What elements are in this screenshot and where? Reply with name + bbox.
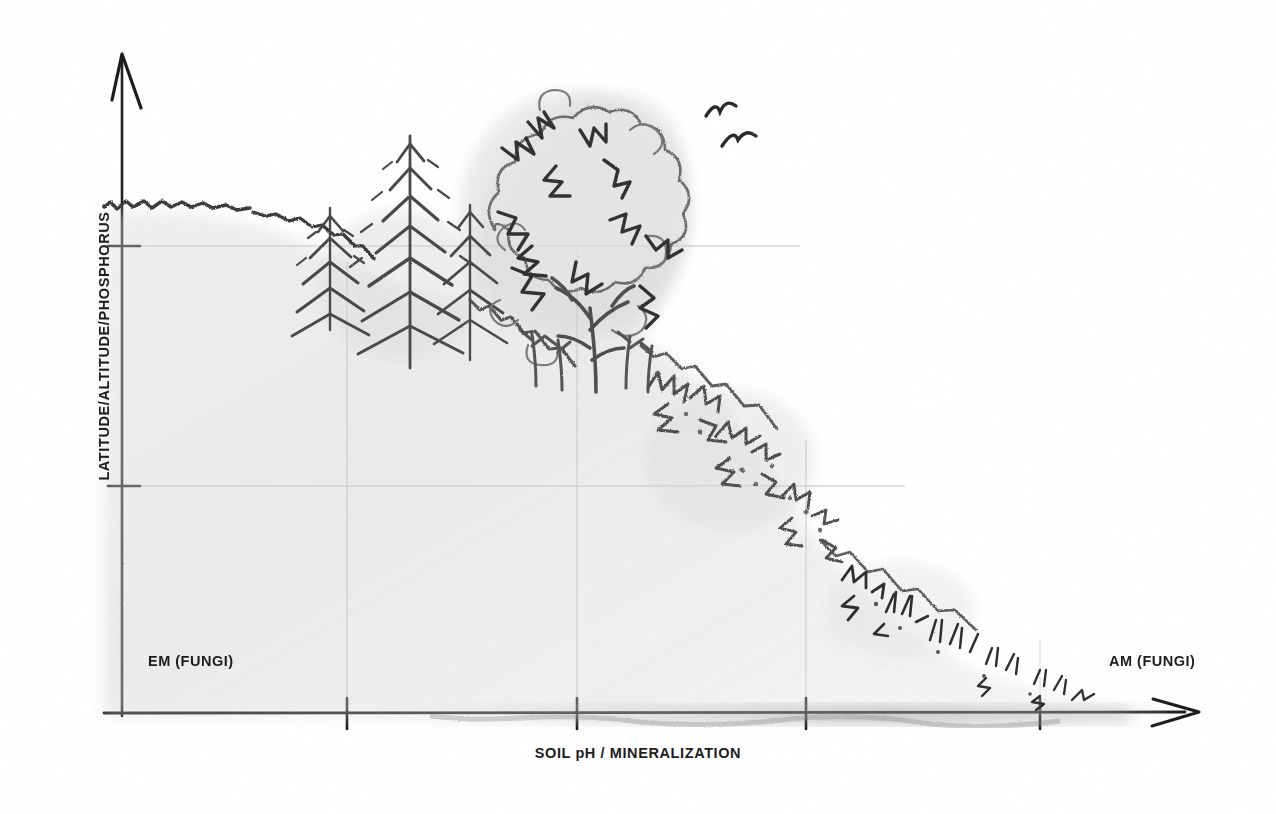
zone-label-em-fungi: EM (FUNGI) — [148, 653, 234, 669]
zone-label-am-fungi: AM (FUNGI) — [1109, 653, 1195, 669]
x-axis-label: SOIL pH / MINERALIZATION — [0, 745, 1276, 761]
diagram-svg — [0, 0, 1276, 814]
y-axis-label: LATITUDE/ALTITUDE/PHOSPHORUS — [96, 206, 112, 486]
sketch-canvas: LATITUDE/ALTITUDE/PHOSPHORUS SOIL pH / M… — [0, 0, 1276, 814]
